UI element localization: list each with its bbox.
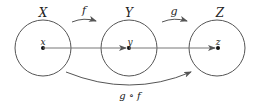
- element-y-label: y: [126, 37, 133, 47]
- g-arrow-icon: [162, 19, 187, 22]
- element-x-label: x: [40, 37, 45, 47]
- f-arrow-icon: [72, 19, 96, 22]
- element-z-label: z: [215, 37, 221, 47]
- set-y-label: Y: [125, 6, 134, 20]
- set-z-label: Z: [215, 6, 225, 20]
- g-compose-f-arrow: [66, 72, 191, 85]
- function-composition-diagram: X Y Z x y z f g g ∘ f: [0, 0, 257, 108]
- map-f-label: f: [81, 4, 88, 17]
- map-gof-label: g ∘ f: [119, 90, 143, 101]
- set-x-label: X: [38, 6, 48, 20]
- map-g-label: g: [170, 5, 177, 18]
